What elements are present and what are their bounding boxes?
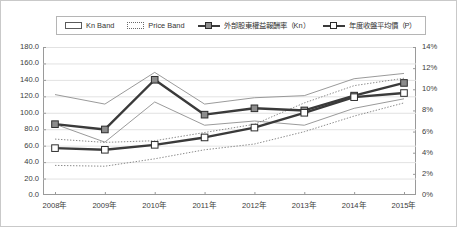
series-price-marker[interactable] xyxy=(351,94,358,101)
x-axis-tick-label: 2009年 xyxy=(83,202,127,210)
chart-svg xyxy=(43,47,416,195)
legend-label-kn-band: Kn Band xyxy=(86,22,114,29)
left-axis-tick-label: 0.0 xyxy=(1,191,39,199)
band-solid-key-icon xyxy=(65,22,82,29)
series-price-marker[interactable] xyxy=(401,90,408,97)
legend-item-kn-series[interactable]: 外部股東權益報酬率（Kn） xyxy=(198,22,310,30)
plot-area xyxy=(43,47,416,195)
right-axis-tick-label: 2% xyxy=(422,170,454,178)
series-kn-line xyxy=(55,80,404,130)
left-axis-tick-label: 40.0 xyxy=(1,158,39,166)
left-axis-tick-label: 100.0 xyxy=(1,109,39,117)
legend-label-kn-series: 外部股東權益報酬率（Kn） xyxy=(224,22,310,29)
series-price-marker[interactable] xyxy=(251,124,258,131)
band-kn-lower-line xyxy=(55,99,404,142)
series-kn-marker[interactable] xyxy=(201,111,208,118)
right-axis-tick-label: 8% xyxy=(422,106,454,114)
series-kn-marker[interactable] xyxy=(401,80,408,87)
series-kn-marker[interactable] xyxy=(151,76,158,83)
chart-legend: Kn Band Price Band 外部股東權益報酬率（Kn） 年度收盤平均價… xyxy=(56,16,426,35)
right-axis-tick-label: 6% xyxy=(422,128,454,136)
left-axis-tick-label: 160.0 xyxy=(1,59,39,67)
series-price-marker[interactable] xyxy=(201,134,208,141)
series-price-marker[interactable] xyxy=(52,145,59,152)
left-axis-tick-label: 60.0 xyxy=(1,142,39,150)
series-kn-marker[interactable] xyxy=(251,105,258,112)
band-dotted-key-icon xyxy=(127,22,144,29)
left-axis-tick-label: 180.0 xyxy=(1,43,39,51)
legend-item-price-series[interactable]: 年度收盤平均價（P） xyxy=(323,22,417,30)
right-axis-tick-label: 14% xyxy=(422,43,454,51)
legend-item-kn-band[interactable]: Kn Band xyxy=(65,22,114,29)
left-axis-tick-label: 20.0 xyxy=(1,175,39,183)
line-filled-key-icon xyxy=(198,22,220,30)
x-axis-tick-label: 2012年 xyxy=(232,202,276,210)
x-axis-tick-label: 2015年 xyxy=(382,202,426,210)
x-axis-tick-label: 2013年 xyxy=(282,202,326,210)
series-price-marker[interactable] xyxy=(102,146,109,153)
left-axis-tick-label: 80.0 xyxy=(1,125,39,133)
legend-label-price-band: Price Band xyxy=(148,22,184,29)
chart-container: Kn Band Price Band 外部股東權益報酬率（Kn） 年度收盤平均價… xyxy=(0,0,457,227)
x-axis-tick-label: 2014年 xyxy=(332,202,376,210)
line-hollow-key-icon xyxy=(323,22,345,30)
right-axis-tick-label: 12% xyxy=(422,64,454,72)
series-kn-marker[interactable] xyxy=(52,121,59,128)
legend-label-price-series: 年度收盤平均價（P） xyxy=(349,22,417,29)
left-axis-tick-label: 120.0 xyxy=(1,92,39,100)
series-price-marker[interactable] xyxy=(301,109,308,116)
x-axis-tick-label: 2010年 xyxy=(133,202,177,210)
series-kn-marker[interactable] xyxy=(102,126,109,133)
right-axis-tick-label: 10% xyxy=(422,85,454,93)
x-axis-tick-label: 2008年 xyxy=(33,202,77,210)
x-axis-tick-label: 2011年 xyxy=(183,202,227,210)
legend-item-price-band[interactable]: Price Band xyxy=(127,22,184,29)
series-price-marker[interactable] xyxy=(151,142,158,149)
right-axis-tick-label: 4% xyxy=(422,149,454,157)
right-axis-tick-label: 0% xyxy=(422,191,454,199)
left-axis-tick-label: 140.0 xyxy=(1,76,39,84)
series-price-line xyxy=(55,93,404,150)
